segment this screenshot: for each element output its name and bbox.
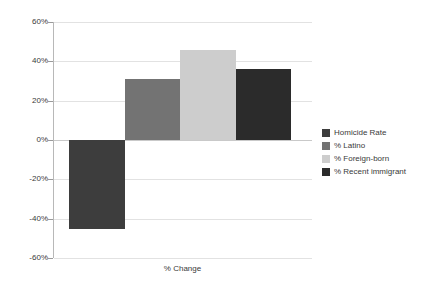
legend-item-label: % Recent immigrant bbox=[334, 167, 406, 176]
x-axis-title: % Change bbox=[53, 264, 312, 274]
legend-item-label: Homicide Rate bbox=[334, 128, 386, 137]
bar-chart: 60%40%20%0%-20%-40%-60% % Change Homicid… bbox=[0, 0, 444, 295]
legend-item-label: % Latino bbox=[334, 141, 365, 150]
gridline-60 bbox=[54, 22, 312, 23]
legend-item[interactable]: % Recent immigrant bbox=[322, 165, 442, 178]
legend-item[interactable]: % Latino bbox=[322, 139, 442, 152]
legend-swatch-icon bbox=[322, 155, 330, 163]
plot-area bbox=[53, 22, 312, 258]
y-tick-label: 40% bbox=[8, 57, 48, 65]
y-tick-label: -20% bbox=[8, 175, 48, 183]
legend-item-label: % Foreign-born bbox=[334, 154, 389, 163]
legend-swatch-icon bbox=[322, 168, 330, 176]
bar-3 bbox=[180, 50, 236, 140]
legend-swatch-icon bbox=[322, 129, 330, 137]
gridline--60 bbox=[54, 258, 312, 259]
y-tick-label: 0% bbox=[8, 136, 48, 144]
y-tick-mark bbox=[48, 258, 53, 259]
bar-2 bbox=[125, 79, 181, 140]
bar-1 bbox=[69, 140, 125, 229]
y-tick-label: 20% bbox=[8, 97, 48, 105]
y-tick-label: -60% bbox=[8, 254, 48, 262]
legend-item[interactable]: % Foreign-born bbox=[322, 152, 442, 165]
chart-legend: Homicide Rate% Latino% Foreign-born% Rec… bbox=[322, 126, 442, 178]
bar-4 bbox=[236, 69, 292, 140]
legend-item[interactable]: Homicide Rate bbox=[322, 126, 442, 139]
y-tick-label: 60% bbox=[8, 18, 48, 26]
y-tick-label: -40% bbox=[8, 215, 48, 223]
legend-swatch-icon bbox=[322, 142, 330, 150]
